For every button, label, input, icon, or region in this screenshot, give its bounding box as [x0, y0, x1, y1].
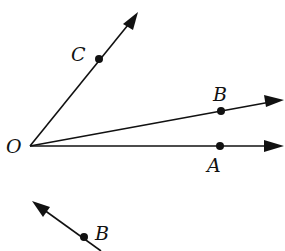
- point-b: [217, 107, 225, 115]
- point-c: [95, 55, 103, 63]
- label-b: B: [212, 83, 227, 105]
- ray-through-b: B: [32, 201, 109, 251]
- point-a: [216, 142, 224, 150]
- arrowhead-icon: [264, 140, 284, 152]
- label-o: O: [6, 135, 22, 157]
- label-a: A: [205, 154, 221, 176]
- label-b2: B: [94, 222, 109, 244]
- ray-oc: C: [30, 12, 138, 146]
- ray-b-line: [40, 207, 101, 251]
- geometry-diagram: C B A O B: [0, 0, 285, 251]
- label-c: C: [71, 43, 86, 65]
- diagram-svg: C B A O B: [0, 0, 285, 251]
- ray-ob-line: [30, 101, 276, 146]
- ray-oa: A: [30, 140, 284, 176]
- ray-ob: B: [30, 83, 284, 146]
- arrowhead-icon: [264, 95, 284, 107]
- ray-oc-line: [30, 20, 132, 146]
- point-b2: [80, 233, 88, 241]
- arrowhead-icon: [32, 201, 50, 217]
